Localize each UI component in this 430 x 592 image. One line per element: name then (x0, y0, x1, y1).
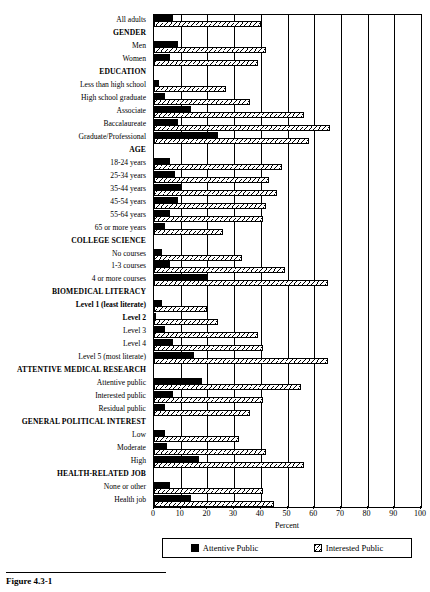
gridline (314, 15, 315, 507)
category-group-label: AGE (129, 145, 146, 154)
bar-interested-public (154, 21, 261, 27)
category-group-label: HEALTH-RELATED JOB (57, 469, 146, 478)
category-row-label: All adults (116, 15, 146, 24)
axis-tick-label: 30 (229, 509, 237, 518)
bar-interested-public (154, 255, 242, 261)
bar-interested-public (154, 410, 250, 416)
category-row-label: None or other (104, 482, 146, 491)
category-row-label: Women (123, 54, 146, 63)
bar-interested-public (154, 436, 239, 442)
bar-interested-public (154, 332, 258, 338)
category-row-label: Men (132, 41, 146, 50)
category-group-label: COLLEGE SCIENCE (71, 236, 146, 245)
category-group-label: EDUCATION (99, 67, 146, 76)
gridline (261, 15, 262, 507)
category-row-label: 65 or more years (95, 223, 146, 232)
category-row-label: 35-44 years (110, 184, 146, 193)
bar-interested-public (154, 267, 285, 273)
category-labels-column: All adultsGENDERMenWomenEDUCATIONLess th… (0, 14, 150, 506)
legend-entry: Interested Public (314, 543, 383, 553)
bar-interested-public (154, 462, 304, 468)
category-row-label: Interested public (95, 391, 146, 400)
axis-tick-label: 90 (389, 509, 397, 518)
bar-interested-public (154, 488, 263, 494)
legend-label: Interested Public (326, 543, 383, 553)
category-row-label: Baccalaureate (103, 119, 146, 128)
bar-interested-public (154, 138, 309, 144)
category-row-label: Graduate/Professional (79, 132, 146, 141)
gridline (368, 15, 369, 507)
category-row-label: High (131, 456, 146, 465)
bar-interested-public (154, 319, 218, 325)
bar-interested-public (154, 203, 266, 209)
category-row-label: Attentive public (97, 378, 146, 387)
category-row-label: Less than high school (80, 80, 146, 89)
bar-interested-public (154, 280, 328, 286)
category-row-label: Level 3 (123, 326, 146, 335)
category-row-label: 25-34 years (110, 171, 146, 180)
axis-tick-label: 20 (202, 509, 210, 518)
bar-interested-public (154, 306, 207, 312)
axis-tick-label: 0 (151, 509, 155, 518)
category-row-label: 18-24 years (110, 158, 146, 167)
bar-interested-public (154, 47, 266, 53)
category-row-label: Moderate (117, 443, 146, 452)
figure-container: All adultsGENDERMenWomenEDUCATIONLess th… (0, 0, 430, 592)
bar-interested-public (154, 125, 330, 131)
category-row-label: 4 or more courses (92, 274, 146, 283)
axis-tick-label: 50 (283, 509, 291, 518)
axis-tick-label: 80 (363, 509, 371, 518)
bar-interested-public (154, 345, 263, 351)
gridline (394, 15, 395, 507)
bar-interested-public (154, 86, 226, 92)
category-row-label: Health job (114, 495, 146, 504)
plot-area (153, 14, 422, 508)
gridline (341, 15, 342, 507)
category-group-label: GENDER (113, 28, 146, 37)
bar-interested-public (154, 99, 250, 105)
category-row-label: No courses (112, 249, 146, 258)
chart-legend: Attentive PublicInterested Public (162, 538, 412, 558)
x-axis-title: Percent (153, 521, 421, 530)
legend-entry: Attentive Public (191, 543, 258, 553)
legend-swatch-interested (314, 544, 322, 552)
bar-interested-public (154, 190, 277, 196)
bar-interested-public (154, 229, 223, 235)
category-row-label: High school graduate (81, 93, 146, 102)
axis-tick-label: 10 (176, 509, 184, 518)
category-row-label: 1-3 courses (111, 261, 146, 270)
category-row-label: Level 2 (123, 313, 146, 322)
category-row-label: Level 4 (123, 339, 146, 348)
category-row-label: Level 5 (most literate) (78, 352, 146, 361)
category-row-label: Associate (116, 106, 146, 115)
bar-interested-public (154, 384, 301, 390)
x-axis-ticks: 0102030405060708090100 (153, 506, 421, 520)
footer-divider (6, 572, 166, 573)
bar-interested-public (154, 112, 304, 118)
category-row-label: 45-54 years (110, 197, 146, 206)
bar-interested-public (154, 358, 328, 364)
axis-tick-label: 70 (336, 509, 344, 518)
category-group-label: ATTENTIVE MEDICAL RESEARCH (17, 365, 146, 374)
category-row-label: Residual public (99, 404, 146, 413)
bar-interested-public (154, 60, 258, 66)
legend-swatch-attentive (191, 544, 199, 552)
category-row-label: Low (132, 430, 146, 439)
gridline (234, 15, 235, 507)
figure-caption: Figure 4.3-1 (6, 576, 52, 586)
category-row-label: Level 1 (least literate) (76, 300, 146, 309)
plot-wrapper: All adultsGENDERMenWomenEDUCATIONLess th… (0, 14, 430, 514)
axis-tick-label: 60 (309, 509, 317, 518)
axis-tick-label: 40 (256, 509, 264, 518)
category-group-label: BIOMEDICAL LITERACY (52, 287, 146, 296)
bar-interested-public (154, 449, 266, 455)
bar-interested-public (154, 216, 263, 222)
gridline (288, 15, 289, 507)
bar-interested-public (154, 164, 282, 170)
legend-label: Attentive Public (203, 543, 258, 553)
category-row-label: 55-64 years (110, 210, 146, 219)
axis-tick-label: 100 (414, 509, 426, 518)
bar-interested-public (154, 177, 269, 183)
category-group-label: GENERAL POLITICAL INTEREST (22, 417, 146, 426)
bar-interested-public (154, 397, 263, 403)
